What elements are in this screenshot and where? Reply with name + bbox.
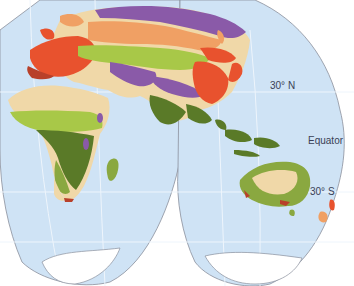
label-30-south: 30° S [310, 186, 335, 197]
label-30-north: 30° N [270, 80, 295, 91]
label-equator: Equator [308, 135, 343, 146]
antarctica [42, 248, 302, 284]
biome-map [0, 0, 354, 286]
